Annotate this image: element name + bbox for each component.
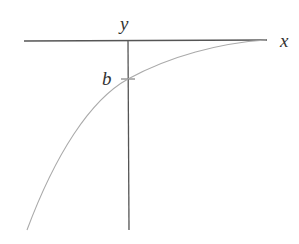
- x-axis: [24, 40, 267, 41]
- intercept-label: b: [102, 68, 112, 89]
- x-axis-label: x: [279, 30, 289, 51]
- function-curve: [27, 40, 266, 230]
- graph-canvas: y x b: [0, 0, 299, 244]
- y-axis: [128, 41, 129, 230]
- y-axis-label: y: [118, 13, 129, 34]
